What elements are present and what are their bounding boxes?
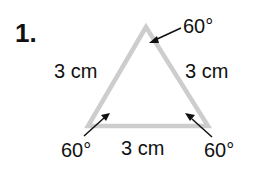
angle-label-bottom-right: 60° bbox=[204, 140, 234, 160]
angle-label-top: 60° bbox=[183, 16, 213, 36]
side-label-left: 3 cm bbox=[54, 61, 97, 81]
angle-label-bottom-left: 60° bbox=[61, 140, 91, 160]
side-label-right: 3 cm bbox=[185, 61, 228, 81]
side-label-bottom: 3 cm bbox=[121, 138, 164, 158]
